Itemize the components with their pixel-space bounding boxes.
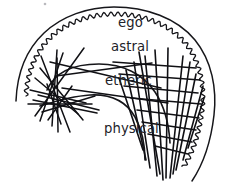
label-astral: astral — [111, 39, 149, 54]
figure-canvas: egoastralethericphysical — [0, 0, 230, 189]
label-physical: physical — [104, 121, 159, 136]
stray-specks — [44, 3, 47, 6]
label-ego: ego — [118, 15, 143, 30]
figure-background — [0, 0, 230, 189]
speck-top — [44, 3, 47, 6]
label-etheric: etheric — [105, 73, 152, 88]
figure-root: egoastralethericphysical — [0, 0, 230, 189]
ray-line — [57, 58, 58, 132]
